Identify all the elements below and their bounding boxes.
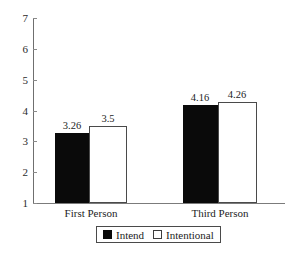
bar-first-person-intend[interactable] bbox=[55, 133, 89, 203]
y-axis-label-2: 2 bbox=[0, 167, 28, 178]
legend-swatch-white-icon bbox=[153, 230, 162, 239]
legend-swatch-black-icon bbox=[103, 230, 112, 239]
y-axis-tick-1 bbox=[33, 203, 37, 204]
y-axis-label-6: 6 bbox=[0, 44, 28, 55]
bar-chart-figure: 7 6 5 4 3 2 1 3.26 3.5 First Person 4.16… bbox=[0, 0, 297, 257]
bar-first-person-intentional[interactable] bbox=[89, 126, 127, 203]
y-axis-tick-2 bbox=[33, 172, 37, 173]
bar-third-person-intentional[interactable] bbox=[218, 102, 257, 203]
y-axis-label-1: 1 bbox=[0, 198, 28, 209]
legend-label-intentional: Intentional bbox=[166, 229, 214, 241]
y-axis-tick-7 bbox=[33, 18, 37, 19]
legend-label-intend: Intend bbox=[116, 229, 144, 241]
bar-third-person-intend[interactable] bbox=[183, 105, 218, 203]
y-axis-label-5: 5 bbox=[0, 75, 28, 86]
x-axis-line bbox=[33, 203, 285, 204]
x-axis-category-third-person: Third Person bbox=[170, 207, 270, 220]
legend-item-intentional[interactable]: Intentional bbox=[153, 229, 214, 241]
y-axis-label-4: 4 bbox=[0, 106, 28, 117]
y-axis-label-7: 7 bbox=[0, 13, 28, 24]
y-axis-tick-5 bbox=[33, 80, 37, 81]
y-axis-tick-6 bbox=[33, 49, 37, 50]
legend-item-intend[interactable]: Intend bbox=[103, 229, 144, 241]
y-axis-tick-4 bbox=[33, 111, 37, 112]
bar-value-first-person-intentional: 3.5 bbox=[86, 113, 130, 124]
y-axis-tick-3 bbox=[33, 141, 37, 142]
x-axis-category-first-person: First Person bbox=[41, 207, 141, 220]
y-axis-label-3: 3 bbox=[0, 136, 28, 147]
bar-value-third-person-intentional: 4.26 bbox=[215, 89, 259, 100]
chart-legend: Intend Intentional bbox=[96, 226, 221, 243]
caption-sliver bbox=[6, 249, 291, 257]
